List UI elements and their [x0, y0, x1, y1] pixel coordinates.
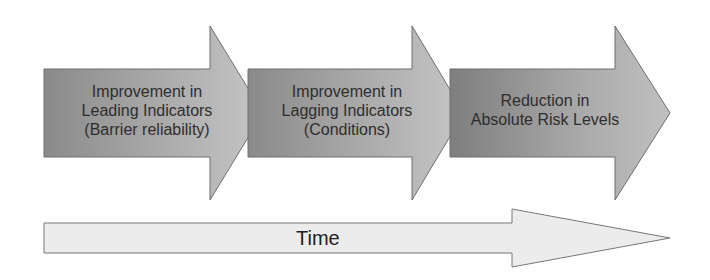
timeline-arrow	[44, 209, 670, 267]
timeline-label: Time	[296, 227, 340, 249]
stage-label-1: Improvement in Leading Indicators (Barri…	[44, 82, 250, 139]
process-diagram	[0, 0, 710, 280]
stage-label-2: Improvement in Lagging Indicators (Condi…	[244, 82, 450, 139]
stage-label-3: Reduction in Absolute Risk Levels	[455, 91, 635, 129]
